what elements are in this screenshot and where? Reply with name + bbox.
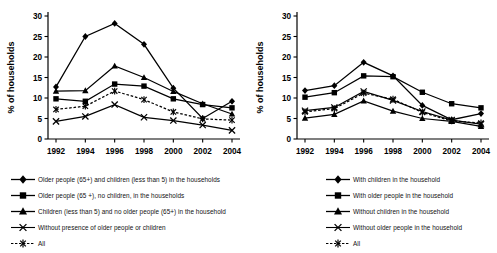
triangle-marker-icon	[10, 205, 36, 218]
legend-item-right-0[interactable]: With children in the household	[325, 172, 440, 187]
asterisk-marker-icon	[10, 237, 36, 250]
figure-two-line-charts: 0510152025301992199419961998200020022004…	[0, 0, 497, 253]
series-line	[305, 76, 481, 108]
y-tick-label: 5	[286, 115, 291, 124]
y-tick-label: 25	[282, 33, 292, 42]
diamond-marker-icon	[229, 98, 235, 105]
y-tick-label: 20	[33, 53, 43, 62]
square-marker-icon	[229, 105, 234, 110]
legend-label-left-3: Without presence of older people or chil…	[36, 224, 166, 232]
cross-marker-icon	[325, 221, 351, 234]
y-tick-label: 5	[37, 115, 42, 124]
legend-left: Older people (65+) and children (less th…	[0, 168, 248, 253]
diamond-marker-icon	[302, 87, 308, 94]
series-1	[53, 81, 234, 110]
y-tick-label: 0	[286, 135, 291, 144]
square-marker-icon	[325, 189, 351, 202]
square-marker-icon	[10, 189, 36, 202]
legend-item-right-2[interactable]: Without children in the household	[325, 204, 449, 219]
asterisk-marker-icon	[171, 109, 176, 116]
x-tick-label: 2004	[223, 147, 242, 156]
x-tick-label: 2004	[472, 147, 491, 156]
y-tick-label: 25	[33, 33, 43, 42]
legend-label-left-0: Older people (65+) and children (less th…	[36, 176, 220, 184]
y-tick-label: 10	[33, 94, 43, 103]
x-tick-label: 1996	[355, 147, 374, 156]
legend-label-right-4: All	[351, 240, 360, 248]
chart-panel-right: 0510152025301992199419961998200020022004…	[249, 0, 497, 253]
triangle-marker-icon	[360, 98, 366, 104]
y-tick-label: 30	[33, 12, 43, 21]
plot-area-right: 0510152025301992199419961998200020022004…	[249, 0, 497, 168]
y-tick-label: 30	[282, 12, 292, 21]
asterisk-marker-icon	[325, 237, 351, 250]
legend-label-left-4: All	[36, 240, 45, 248]
legend-item-right-3[interactable]: Without older people in the household	[325, 220, 462, 235]
diamond-marker-icon	[10, 173, 36, 186]
diamond-marker-icon	[112, 20, 118, 27]
x-tick-label: 1998	[135, 147, 154, 156]
plot-area-left: 0510152025301992199419961998200020022004…	[0, 0, 248, 168]
x-tick-label: 2000	[413, 147, 432, 156]
triangle-marker-icon	[325, 205, 351, 218]
legend-item-right-1[interactable]: With older people in the household	[325, 188, 453, 203]
y-tick-label: 15	[33, 74, 43, 83]
y-axis-title: % of households	[6, 42, 16, 114]
x-tick-label: 2002	[194, 147, 213, 156]
legend-item-left-2[interactable]: Children (less than 5) and no older peop…	[10, 204, 226, 219]
asterisk-marker-icon	[112, 88, 117, 95]
square-marker-icon	[112, 81, 117, 86]
line-chart-left: 0510152025301992199419961998200020022004…	[0, 0, 248, 168]
y-tick-label: 10	[282, 94, 292, 103]
y-tick-label: 20	[282, 53, 292, 62]
legend-label-left-2: Children (less than 5) and no older peop…	[36, 208, 226, 216]
legend-label-right-0: With children in the household	[351, 176, 440, 184]
series-line	[56, 91, 232, 120]
diamond-marker-icon	[325, 173, 351, 186]
x-tick-label: 1994	[76, 147, 95, 156]
series-1	[302, 73, 483, 110]
x-tick-label: 1998	[384, 147, 403, 156]
square-marker-icon	[302, 94, 307, 99]
square-marker-icon	[361, 73, 366, 78]
x-tick-label: 1992	[47, 147, 66, 156]
x-tick-label: 1996	[106, 147, 125, 156]
square-marker-icon	[332, 90, 337, 95]
series-2	[53, 63, 235, 117]
square-marker-icon	[53, 96, 58, 101]
triangle-marker-icon	[111, 63, 117, 69]
square-marker-icon	[478, 105, 483, 110]
asterisk-marker-icon	[141, 96, 146, 103]
legend-label-right-3: Without older people in the household	[351, 224, 462, 232]
cross-marker-icon	[10, 221, 36, 234]
square-marker-icon	[141, 83, 146, 88]
diamond-marker-icon	[478, 110, 484, 117]
x-tick-label: 2002	[443, 147, 462, 156]
legend-item-left-0[interactable]: Older people (65+) and children (less th…	[10, 172, 220, 187]
legend-item-left-3[interactable]: Without presence of older people or chil…	[10, 220, 166, 235]
legend-item-right-4[interactable]: All	[325, 236, 360, 251]
square-marker-icon	[449, 101, 454, 106]
y-tick-label: 0	[37, 135, 42, 144]
x-tick-label: 1994	[325, 147, 344, 156]
legend-item-left-1[interactable]: Older people (65 +), no children, in the…	[10, 188, 184, 203]
y-axis-title: % of households	[255, 42, 265, 114]
square-marker-icon	[420, 90, 425, 95]
x-tick-label: 2000	[164, 147, 183, 156]
legend-item-left-4[interactable]: All	[10, 236, 45, 251]
chart-panel-left: 0510152025301992199419961998200020022004…	[0, 0, 248, 253]
legend-right: With children in the household With olde…	[249, 168, 497, 253]
cross-marker-icon	[112, 101, 118, 107]
x-tick-label: 1992	[296, 147, 315, 156]
legend-label-left-1: Older people (65 +), no children, in the…	[36, 192, 184, 200]
square-marker-icon	[390, 74, 395, 79]
legend-label-right-2: Without children in the household	[351, 208, 449, 216]
legend-label-right-1: With older people in the household	[351, 192, 453, 200]
line-chart-right: 0510152025301992199419961998200020022004…	[249, 0, 497, 168]
y-tick-label: 15	[282, 74, 292, 83]
square-marker-icon	[171, 96, 176, 101]
